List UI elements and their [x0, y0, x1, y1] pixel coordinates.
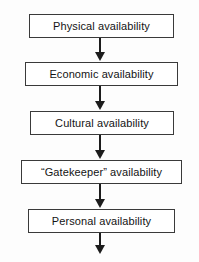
node-label: Cultural availability [55, 118, 149, 129]
down-arrow-icon [95, 150, 105, 159]
connector-economic-to-cultural [92, 86, 108, 110]
connector-stem [99, 184, 101, 199]
node-physical: Physical availability [29, 14, 174, 38]
connector-physical-to-economic [92, 38, 108, 61]
connector-stem [99, 38, 101, 52]
node-label: Physical availability [53, 21, 150, 32]
flowchart-diagram: Physical availabilityEconomic availabili… [0, 0, 199, 262]
down-arrow-icon [95, 52, 105, 61]
node-label: Economic availability [49, 69, 153, 80]
node-economic: Economic availability [25, 62, 178, 86]
node-label: Personal availability [52, 216, 151, 227]
connector-gatekeeper-to-personal [92, 184, 108, 208]
down-arrow-icon [95, 199, 105, 208]
down-arrow-icon [95, 245, 105, 254]
connector-stem [99, 135, 101, 150]
connector-stem [99, 233, 101, 245]
node-cultural: Cultural availability [30, 111, 174, 135]
node-label: “Gatekeeper” availability [41, 167, 162, 178]
node-gatekeeper: “Gatekeeper” availability [21, 160, 182, 184]
connector-cultural-to-gatekeeper [92, 135, 108, 159]
connector-personal-to-outflow [92, 233, 108, 254]
connector-stem [99, 86, 101, 101]
node-personal: Personal availability [28, 209, 175, 233]
down-arrow-icon [95, 101, 105, 110]
